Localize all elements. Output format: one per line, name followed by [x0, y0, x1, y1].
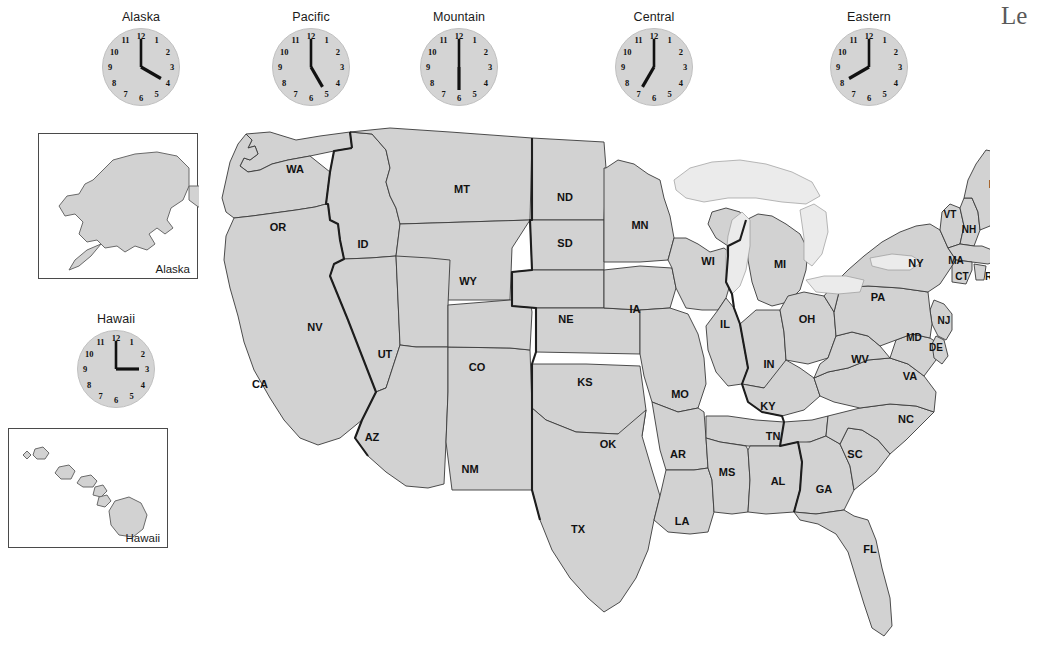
clock-numeral-10: 10 — [838, 47, 847, 57]
state-label-KS: KS — [577, 376, 592, 388]
clock-numeral-5: 5 — [472, 89, 476, 99]
clock-numeral-8: 8 — [840, 78, 844, 88]
clock-face-mountain: 121234567891011 — [418, 26, 500, 108]
clock-numeral-1: 1 — [154, 35, 158, 45]
clock-numeral-6: 6 — [139, 93, 143, 103]
clock-numeral-9: 9 — [836, 62, 840, 72]
state-label-OK: OK — [600, 438, 617, 450]
state-label-IN: IN — [764, 358, 775, 370]
state-label-MS: MS — [719, 466, 736, 478]
clock-numeral-3: 3 — [340, 62, 344, 72]
state-label-MI: MI — [774, 258, 786, 270]
clock-numeral-10: 10 — [85, 349, 94, 359]
hawaii-island-2 — [33, 447, 49, 459]
clock-numeral-2: 2 — [166, 47, 170, 57]
clock-alaska: Alaska121234567891011 — [100, 10, 182, 108]
clock-numeral-1: 1 — [472, 35, 476, 45]
clock-numeral-4: 4 — [484, 78, 489, 88]
clock-numeral-3: 3 — [488, 62, 492, 72]
clock-numeral-11: 11 — [96, 337, 104, 347]
state-label-CT: CT — [955, 271, 968, 282]
clock-numeral-10: 10 — [428, 47, 437, 57]
clock-face-alaska: 121234567891011 — [100, 26, 182, 108]
hawaii-inset-label: Hawaii — [125, 532, 160, 544]
state-label-MN: MN — [631, 219, 648, 231]
clock-numeral-4: 4 — [894, 78, 899, 88]
hawaii-island-4 — [77, 475, 97, 487]
clock-label-central: Central — [613, 10, 695, 24]
clock-numeral-9: 9 — [108, 62, 112, 72]
clock-numeral-9: 9 — [426, 62, 430, 72]
clock-hawaii: Hawaii121234567891011 — [75, 312, 157, 410]
state-label-MA: MA — [948, 255, 964, 266]
clock-numeral-1: 1 — [324, 35, 328, 45]
state-label-TN: TN — [766, 430, 781, 442]
timezone-map-page: Le Alaska121234567891011Pacific121234567… — [0, 0, 1043, 653]
state-shape-TX — [532, 408, 660, 612]
clock-numeral-6: 6 — [457, 93, 461, 103]
clock-numeral-9: 9 — [621, 62, 625, 72]
state-label-AR: AR — [670, 448, 686, 460]
state-label-NM: NM — [461, 463, 478, 475]
clock-numeral-5: 5 — [154, 89, 158, 99]
hawaii-island-1 — [23, 451, 31, 459]
state-label-WV: WV — [851, 353, 869, 365]
clock-face-hawaii: 121234567891011 — [75, 328, 157, 410]
clock-numeral-8: 8 — [625, 78, 629, 88]
clock-numeral-5: 5 — [129, 391, 133, 401]
state-label-IL: IL — [720, 318, 730, 330]
state-label-TX: TX — [571, 523, 586, 535]
state-shape-NM — [446, 347, 532, 490]
clock-numeral-2: 2 — [141, 349, 145, 359]
states-group — [222, 128, 990, 636]
clock-numeral-8: 8 — [112, 78, 116, 88]
state-shape-KS — [536, 308, 640, 354]
lake-huron — [800, 204, 828, 266]
clock-numeral-3: 3 — [170, 62, 174, 72]
clock-numeral-2: 2 — [894, 47, 898, 57]
clock-numeral-11: 11 — [121, 35, 129, 45]
clock-face-pacific: 121234567891011 — [270, 26, 352, 108]
state-label-RI: RI — [985, 271, 990, 282]
state-label-NJ: NJ — [938, 315, 951, 326]
lake-superior — [674, 160, 820, 204]
state-label-WI: WI — [701, 255, 714, 267]
clock-numeral-11: 11 — [849, 35, 857, 45]
state-shape-NE — [512, 270, 604, 308]
state-label-LA: LA — [675, 515, 690, 527]
clock-label-mountain: Mountain — [418, 10, 500, 24]
state-label-UT: UT — [378, 348, 393, 360]
clock-numeral-10: 10 — [280, 47, 289, 57]
state-label-WY: WY — [459, 275, 477, 287]
state-label-AZ: AZ — [365, 431, 380, 443]
state-label-NH: NH — [962, 224, 976, 235]
state-label-MD: MD — [906, 332, 922, 343]
alaska-shape — [59, 152, 199, 270]
clock-numeral-5: 5 — [667, 89, 671, 99]
clock-numeral-4: 4 — [141, 380, 146, 390]
state-shape-FL — [794, 510, 892, 636]
state-label-PA: PA — [871, 291, 886, 303]
clock-numeral-11: 11 — [634, 35, 642, 45]
clock-face-central: 121234567891011 — [613, 26, 695, 108]
state-label-MT: MT — [454, 183, 470, 195]
state-label-DE: DE — [929, 342, 943, 353]
clock-numeral-3: 3 — [898, 62, 902, 72]
state-label-IA: IA — [630, 303, 641, 315]
clock-numeral-8: 8 — [430, 78, 434, 88]
state-label-VT: VT — [944, 209, 957, 220]
clock-central: Central121234567891011 — [613, 10, 695, 108]
clock-numeral-1: 1 — [882, 35, 886, 45]
alaska-inset: Alaska — [38, 133, 198, 279]
clock-numeral-11: 11 — [439, 35, 447, 45]
clock-label-alaska: Alaska — [100, 10, 182, 24]
clock-numeral-5: 5 — [882, 89, 886, 99]
clock-numeral-5: 5 — [324, 89, 328, 99]
state-label-CO: CO — [469, 361, 486, 373]
clock-numeral-11: 11 — [291, 35, 299, 45]
clock-numeral-3: 3 — [683, 62, 687, 72]
state-label-ND: ND — [557, 191, 573, 203]
state-label-KY: KY — [760, 400, 776, 412]
hawaii-island-7 — [109, 497, 147, 537]
page-heading-fragment: Le — [1001, 2, 1043, 30]
